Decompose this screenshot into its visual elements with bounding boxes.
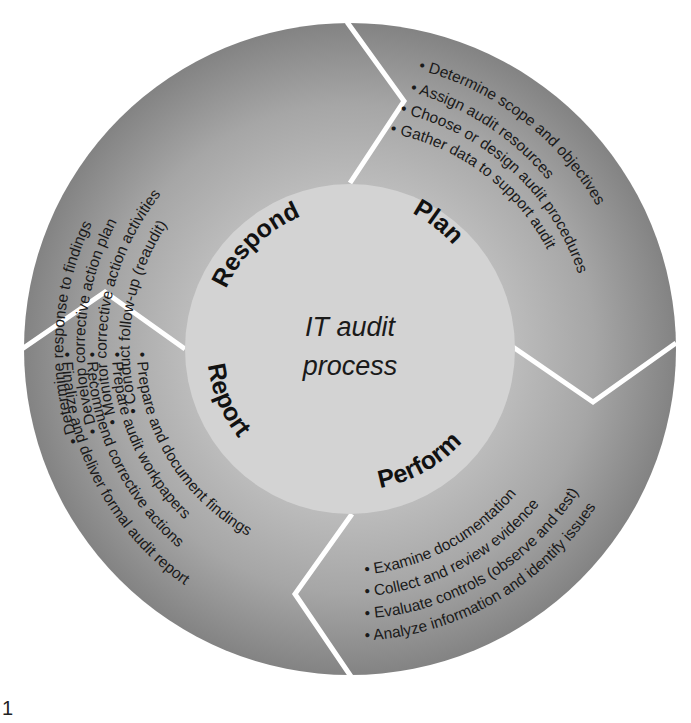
center-title-line2: process: [302, 351, 398, 381]
figure-number: 1: [2, 697, 13, 720]
center-title-line1: IT audit: [305, 312, 397, 342]
it-audit-process-diagram: IT audit process Respond Plan Perform Re…: [0, 0, 691, 723]
